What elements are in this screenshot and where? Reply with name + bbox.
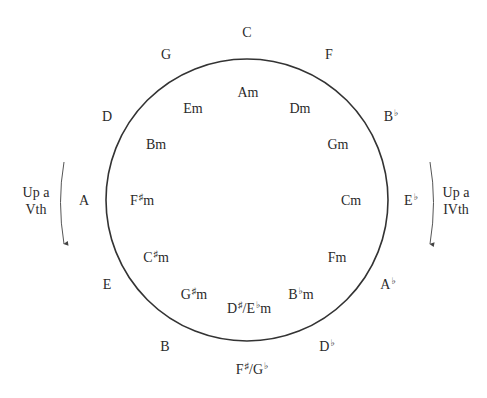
accidental-glyph: ♭ xyxy=(256,300,260,310)
minor-key-bm: Bm xyxy=(146,137,166,153)
key-text: C xyxy=(341,193,350,208)
major-key-a: A xyxy=(79,193,89,209)
major-key-f-sharp-g-flat: F♯/G♭ xyxy=(236,362,269,379)
major-key-b-flat: B♭ xyxy=(384,109,399,126)
minor-key-c-sharp-m: C♯m xyxy=(143,250,169,267)
annotation-line: IVth xyxy=(434,201,478,218)
key-text: A xyxy=(237,85,247,100)
key-text: B xyxy=(288,287,297,302)
arrow-down-left-icon xyxy=(61,162,65,244)
major-key-c: C xyxy=(242,25,251,41)
accidental-glyph: ♭ xyxy=(414,192,418,202)
accidental-glyph: ♯ xyxy=(153,249,158,259)
major-key-f: F xyxy=(325,47,333,63)
key-text: m xyxy=(303,287,314,302)
key-text: A xyxy=(380,277,390,292)
accidental-glyph: ♭ xyxy=(330,338,334,348)
key-text: B xyxy=(146,137,155,152)
key-text: m xyxy=(158,250,169,265)
key-text: /G xyxy=(249,362,263,377)
key-text: E xyxy=(183,101,192,116)
major-key-e-flat: E♭ xyxy=(404,193,418,210)
accidental-glyph: ♭ xyxy=(299,286,303,296)
accidental-glyph: ♭ xyxy=(391,276,395,286)
key-text: F xyxy=(325,47,333,62)
key-text: D xyxy=(289,101,299,116)
accidental-glyph: ♯ xyxy=(192,286,197,296)
minor-key-f-sharp-m: F♯m xyxy=(130,193,154,210)
key-text: m xyxy=(143,193,154,208)
key-text: E xyxy=(404,193,413,208)
key-text: E xyxy=(103,277,112,292)
key-text: F xyxy=(236,362,244,377)
major-key-g: G xyxy=(161,47,171,63)
key-text: m xyxy=(260,301,271,316)
key-text: D xyxy=(227,301,237,316)
accidental-glyph: ♭ xyxy=(394,108,398,118)
key-text: B xyxy=(160,339,169,354)
accidental-glyph: ♭ xyxy=(264,361,268,371)
minor-key-b-flat-m: B♭m xyxy=(288,287,313,304)
minor-key-am: Am xyxy=(237,85,258,101)
minor-key-fm: Fm xyxy=(328,250,347,266)
key-text: G xyxy=(181,287,191,302)
key-text: /E xyxy=(243,301,255,316)
annotation-line: Up a xyxy=(16,184,56,201)
major-key-e: E xyxy=(103,277,112,293)
key-text: D xyxy=(102,109,112,124)
major-key-d: D xyxy=(102,109,112,125)
key-text: F xyxy=(328,250,336,265)
key-text: G xyxy=(327,137,337,152)
key-text: m xyxy=(196,287,207,302)
key-text: A xyxy=(79,193,89,208)
accidental-glyph: ♯ xyxy=(139,192,144,202)
accidental-glyph: ♯ xyxy=(245,361,250,371)
accidental-glyph: ♯ xyxy=(238,300,243,310)
key-text: m xyxy=(248,85,259,100)
key-text: m xyxy=(335,250,346,265)
arrow-down-right-icon xyxy=(430,162,434,244)
circle-of-fifths-diagram: CFB♭E♭A♭D♭F♯/G♭BEADG AmDmGmCmFmB♭mD♯/E♭m… xyxy=(0,0,487,398)
key-text: m xyxy=(338,137,349,152)
annotation-line: Vth xyxy=(16,201,56,218)
key-text: C xyxy=(143,250,152,265)
major-key-b: B xyxy=(160,339,169,355)
key-text: m xyxy=(350,193,361,208)
annotation-line: Up a xyxy=(434,184,478,201)
key-text: m xyxy=(300,101,311,116)
key-text: m xyxy=(155,137,166,152)
key-text: C xyxy=(242,25,251,40)
key-text: D xyxy=(319,339,329,354)
key-text: F xyxy=(130,193,138,208)
major-key-d-flat: D♭ xyxy=(319,339,334,356)
annotation-up-a-fourth: Up a IVth xyxy=(434,184,478,218)
minor-key-g-sharp-m: G♯m xyxy=(181,287,208,304)
key-text: m xyxy=(192,101,203,116)
minor-key-gm: Gm xyxy=(327,137,348,153)
key-text: G xyxy=(161,47,171,62)
major-key-a-flat: A♭ xyxy=(380,277,395,294)
minor-key-em: Em xyxy=(183,101,202,117)
minor-key-dm: Dm xyxy=(289,101,310,117)
annotation-up-a-fifth: Up a Vth xyxy=(16,184,56,218)
key-text: B xyxy=(384,109,393,124)
minor-key-d-sharp-e-flat-m: D♯/E♭m xyxy=(227,301,271,318)
minor-key-cm: Cm xyxy=(341,193,361,209)
